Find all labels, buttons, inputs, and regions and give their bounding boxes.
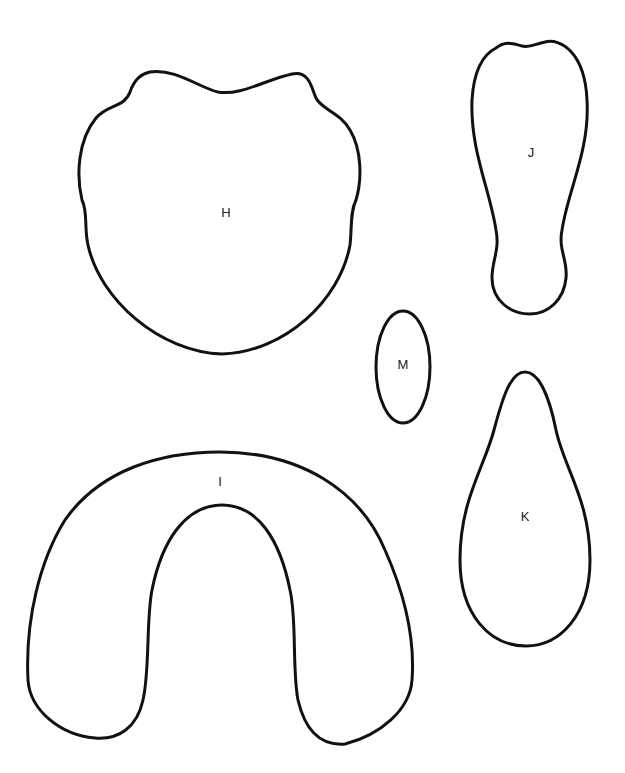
shape-k-label: K [521, 509, 530, 524]
shape-h: H [79, 71, 360, 354]
shape-i-outline [28, 452, 413, 744]
shape-h-label: H [221, 205, 230, 220]
template-canvas: H J M K I [0, 0, 625, 773]
shape-i: I [28, 452, 413, 744]
shape-j-label: J [528, 145, 535, 160]
shape-k: K [460, 372, 590, 646]
shape-m: M [376, 311, 430, 423]
shape-m-label: M [398, 357, 409, 372]
shape-h-outline [79, 71, 360, 354]
shape-j-outline [472, 41, 587, 314]
shape-i-label: I [218, 474, 222, 489]
shape-j: J [472, 41, 587, 314]
